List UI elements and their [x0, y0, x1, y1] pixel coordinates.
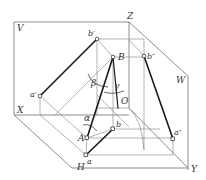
label-B: B [117, 52, 125, 62]
label-a-dprime: a″ [174, 128, 182, 137]
label-a: a [87, 157, 92, 166]
diagram-canvas: V H W X Y Z O b′ B b″ a′ b A a a″ α β γ [0, 0, 206, 180]
label-V: V [17, 23, 25, 33]
projection-diagram: V H W X Y Z O b′ B b″ a′ b A a a″ α β γ [0, 0, 206, 180]
label-O: O [121, 96, 129, 106]
point-a [84, 153, 88, 157]
point-b-dprime [142, 54, 146, 58]
line-a-prime-b-prime [40, 39, 97, 96]
point-b-prime [95, 37, 99, 41]
label-Y: Y [191, 164, 198, 174]
label-A: A [77, 133, 85, 143]
point-B [111, 55, 115, 59]
point-b [111, 127, 115, 131]
label-X: X [16, 105, 24, 115]
label-W: W [176, 75, 186, 85]
label-b-dprime: b″ [147, 52, 155, 61]
gamma-arc [104, 91, 124, 93]
label-b-prime: b′ [88, 29, 95, 38]
point-a-prime [38, 94, 42, 98]
label-a-prime: a′ [30, 90, 37, 99]
v-plane [14, 22, 129, 115]
point-A [85, 136, 89, 140]
label-Z: Z [126, 11, 134, 21]
label-beta: β [90, 78, 96, 88]
label-b: b [116, 120, 121, 129]
point-a-dprime [171, 137, 175, 141]
label-alpha: α [84, 113, 90, 123]
line-a-dprime-b-dprime [144, 56, 173, 139]
label-H: H [76, 162, 85, 172]
line-ab [86, 129, 113, 155]
label-gamma: γ [114, 81, 120, 91]
